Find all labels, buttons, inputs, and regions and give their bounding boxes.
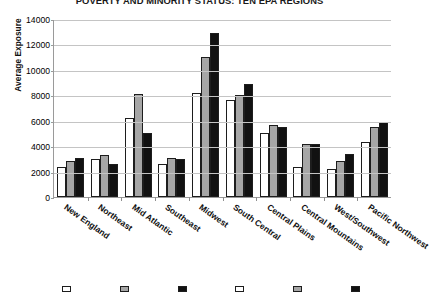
legend-item: [178, 286, 189, 293]
bar: [302, 144, 311, 197]
legend-item: [62, 286, 73, 293]
chart-title: POVERTY AND MINORITY STATUS: TEN EPA REG…: [0, 0, 399, 7]
y-axis-tickmark: [51, 45, 54, 46]
y-axis-tick-label: 6000: [12, 118, 50, 126]
bar-group: [88, 20, 122, 197]
bar-group: [121, 20, 155, 197]
bar-group: [256, 20, 290, 197]
gridline: [54, 71, 391, 72]
bar: [278, 127, 287, 197]
bar: [167, 158, 176, 197]
y-axis-tickmark: [51, 147, 54, 148]
legend-item: [120, 286, 131, 293]
legend-item: [351, 286, 362, 293]
chart-legend: [62, 286, 362, 293]
gridline: [54, 20, 391, 21]
bar-group: [189, 20, 223, 197]
bar: [134, 94, 143, 197]
y-axis-tick-label: 10000: [12, 67, 50, 75]
legend-swatch: [293, 286, 302, 292]
bar-group: [357, 20, 391, 197]
bar: [201, 57, 210, 197]
x-axis-category-label: Pacific Northwest: [366, 202, 430, 251]
legend-swatch: [178, 286, 187, 292]
legend-swatch: [351, 286, 360, 292]
legend-swatch: [235, 286, 244, 292]
bar: [269, 125, 278, 197]
bar-group: [290, 20, 324, 197]
bar: [125, 118, 134, 197]
y-axis-tick-label: 14000: [12, 16, 50, 24]
y-axis-tickmark: [51, 96, 54, 97]
bar: [66, 161, 75, 197]
y-axis-tick-label: 12000: [12, 41, 50, 49]
bar: [143, 133, 152, 197]
bar-group: [324, 20, 358, 197]
bar: [260, 133, 269, 197]
y-axis-tickmark: [51, 71, 54, 72]
bar: [91, 159, 100, 197]
y-axis-tickmark: [51, 122, 54, 123]
bar: [370, 127, 379, 197]
y-axis-tickmark: [51, 173, 54, 174]
y-axis-tick-label: 8000: [12, 92, 50, 100]
bar: [57, 167, 66, 198]
bar: [192, 93, 201, 197]
bar-groups: [54, 20, 391, 197]
legend-swatch: [120, 286, 129, 292]
y-axis-tick-labels: 14000120001000080006000400020000: [12, 0, 50, 293]
legend-item: [293, 286, 304, 293]
bar: [176, 159, 185, 197]
bar: [293, 167, 302, 198]
y-axis-tick-label: 4000: [12, 143, 50, 151]
gridline: [54, 96, 391, 97]
x-axis-category-labels: New EnglandNortheastMid AtlanticSoutheas…: [53, 198, 391, 260]
bar: [158, 164, 167, 197]
y-axis-tickmark: [51, 20, 54, 21]
gridline: [54, 173, 391, 174]
gridline: [54, 45, 391, 46]
y-axis-tick-label: 0: [12, 194, 50, 202]
bar: [345, 154, 354, 197]
bar-group: [155, 20, 189, 197]
bar: [361, 142, 370, 197]
bar: [244, 84, 253, 197]
bar: [336, 161, 345, 197]
bar-group: [54, 20, 88, 197]
bar: [75, 158, 84, 197]
bar-group: [223, 20, 257, 197]
y-axis-tick-label: 2000: [12, 169, 50, 177]
bar: [235, 95, 244, 197]
bar: [109, 164, 118, 197]
bar: [311, 144, 320, 197]
bar: [100, 155, 109, 197]
gridline: [54, 122, 391, 123]
legend-swatch: [62, 286, 71, 292]
legend-item: [235, 286, 246, 293]
bar: [226, 100, 235, 197]
gridline: [54, 147, 391, 148]
plot-area: [53, 20, 391, 198]
bar: [379, 122, 388, 197]
